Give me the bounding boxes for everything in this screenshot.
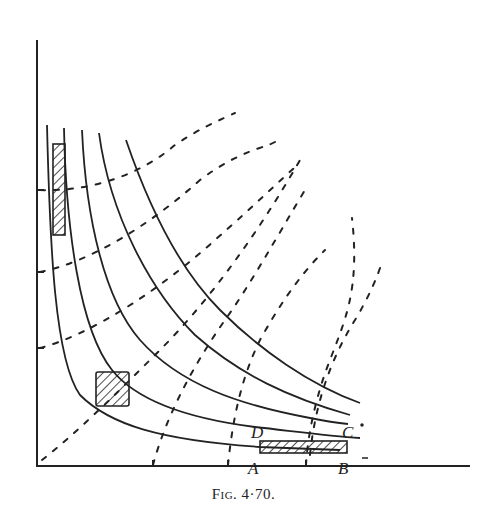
solid-curves: [47, 125, 360, 450]
hatched-regions: [53, 144, 347, 453]
hatched-wide-rect: [260, 441, 347, 453]
dashed-curve-4: [42, 160, 300, 460]
dashed-curve-2: [40, 142, 275, 272]
small-marks: [361, 424, 368, 458]
hatched-square: [96, 372, 129, 406]
dashed-curve-1: [40, 113, 235, 190]
hyperbola-1: [47, 125, 340, 450]
dashed-curve-3: [40, 163, 300, 348]
label-b: B: [338, 459, 349, 478]
dashed-curves: [40, 113, 382, 465]
figure-caption: Fig. 4·70.: [0, 486, 487, 503]
hyperbola-diagram: D C A B: [0, 0, 487, 521]
label-c: C: [342, 423, 354, 442]
label-a: A: [247, 459, 259, 478]
hyperbola-5: [126, 140, 360, 403]
hatched-tall-rect: [53, 144, 65, 235]
label-d: D: [250, 423, 264, 442]
